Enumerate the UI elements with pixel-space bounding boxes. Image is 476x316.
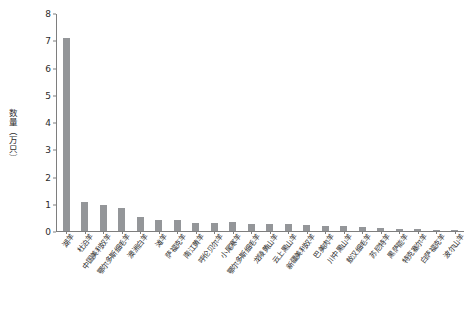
bar-slot [316,14,335,231]
x-tick-label: 湖羊 [62,233,76,249]
bar-slot [409,14,428,231]
y-axis-title: 数量（万只） [4,88,20,184]
bar-slot [168,14,187,231]
bar [100,205,107,231]
bar-slot [131,14,150,231]
y-tick-mark [53,123,56,124]
bar-chart-figure: 数量（万只） 012345678 湖羊杜泊羊中国美利奴羊鄂尔多斯细毛羊澳洲白羊滩… [0,0,476,316]
y-tick-mark [53,41,56,42]
bar-slot [261,14,280,231]
y-tick-mark [53,204,56,205]
x-tick-label: 滩羊 [154,233,168,249]
y-tick-mark [53,14,56,15]
bar-slot [446,14,465,231]
bar-slot [113,14,132,231]
bar [192,223,199,231]
bar [137,217,144,231]
bar [248,224,255,231]
bars-group [57,14,464,231]
bar-slot [298,14,317,231]
bar-slot [335,14,354,231]
plot-area: 012345678 [56,14,464,232]
y-tick-mark [53,177,56,178]
y-tick-mark [53,95,56,96]
bar-slot [242,14,261,231]
bar [81,202,88,231]
bar [155,220,162,231]
bar-slot [279,14,298,231]
y-tick-mark [53,150,56,151]
bar-slot [205,14,224,231]
bar-slot [76,14,95,231]
bar-slot [372,14,391,231]
y-tick-mark [53,68,56,69]
bar [211,223,218,231]
bar [118,208,125,231]
bar-slot [224,14,243,231]
bar [63,38,70,231]
bar [229,222,236,231]
bar [285,224,292,231]
bar-slot [57,14,76,231]
bar-slot [390,14,409,231]
bar-slot [353,14,372,231]
bar-slot [187,14,206,231]
bar-slot [94,14,113,231]
y-tick-mark [53,232,56,233]
bar-slot [427,14,446,231]
x-axis-labels: 湖羊杜泊羊中国美利奴羊鄂尔多斯细毛羊澳洲白羊滩羊萨福克羊南江黄羊呼伦贝尔羊小尾寒… [57,233,465,313]
bar-slot [150,14,169,231]
bar [174,220,181,231]
